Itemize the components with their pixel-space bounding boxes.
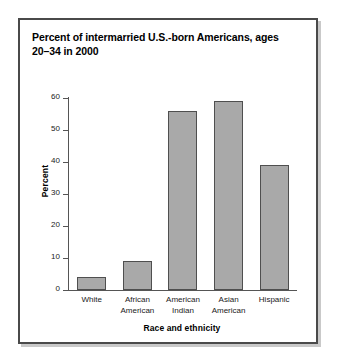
y-tick-50: 50 xyxy=(63,130,68,131)
x-axis-tick-labels: White African American American Indian A… xyxy=(69,295,297,316)
x-label-african-american-line-1: African xyxy=(115,295,161,306)
x-label-asian-american-line-2: American xyxy=(206,306,252,317)
bar-slot-hispanic xyxy=(251,98,297,290)
bar-slot-white xyxy=(69,98,115,290)
chart-title-line-2: 20–34 in 2000 xyxy=(32,44,307,58)
chart-title-line-1: Percent of intermarried U.S.-born Americ… xyxy=(32,30,307,44)
y-tick-40: 40 xyxy=(63,162,68,163)
y-axis-title: Percent xyxy=(40,165,50,198)
bar-hispanic[interactable] xyxy=(260,165,289,290)
y-tick-label-20: 20 xyxy=(51,220,60,229)
x-label-asian-american: Asian American xyxy=(206,295,252,316)
x-label-american-indian-line-1: American xyxy=(160,295,206,306)
x-label-hispanic: Hispanic xyxy=(251,295,297,316)
y-tick-0: 0 xyxy=(63,290,68,291)
y-tick-label-50: 50 xyxy=(51,124,60,133)
y-tick-30: 30 xyxy=(63,194,68,195)
bar-slot-african-american xyxy=(115,98,161,290)
bar-series xyxy=(69,98,297,290)
bar-american-indian[interactable] xyxy=(168,111,197,290)
y-tick-10: 10 xyxy=(63,258,68,259)
y-tick-label-40: 40 xyxy=(51,156,60,165)
bar-african-american[interactable] xyxy=(123,261,152,290)
x-label-african-american-line-2: American xyxy=(115,306,161,317)
y-tick-20: 20 xyxy=(63,226,68,227)
x-label-american-indian: American Indian xyxy=(160,295,206,316)
y-tick-label-30: 30 xyxy=(51,188,60,197)
y-tick-label-60: 60 xyxy=(51,92,60,101)
y-tick-label-0: 0 xyxy=(56,284,60,293)
bar-white[interactable] xyxy=(77,277,106,290)
bar-slot-american-indian xyxy=(160,98,206,290)
x-axis-title: Race and ethnicity xyxy=(68,323,296,333)
bar-slot-asian-american xyxy=(206,98,252,290)
bar-asian-american[interactable] xyxy=(214,101,243,290)
x-label-white-line-1: White xyxy=(69,295,115,306)
x-label-american-indian-line-2: Indian xyxy=(160,306,206,317)
x-label-hispanic-line-1: Hispanic xyxy=(251,295,297,306)
x-label-asian-american-line-1: Asian xyxy=(206,295,252,306)
x-label-african-american: African American xyxy=(115,295,161,316)
x-axis-line xyxy=(68,290,297,291)
plot-area: 0 10 20 30 40 50 60 xyxy=(68,99,296,291)
y-tick-60: 60 xyxy=(63,98,68,99)
y-tick-label-10: 10 xyxy=(51,252,60,261)
chart-figure: Percent of intermarried U.S.-born Americ… xyxy=(18,18,318,344)
x-label-white: White xyxy=(69,295,115,316)
chart-title: Percent of intermarried U.S.-born Americ… xyxy=(32,30,307,58)
